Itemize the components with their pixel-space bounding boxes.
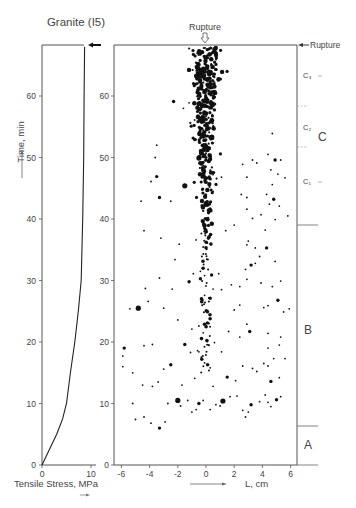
event-point xyxy=(284,358,286,360)
left-y-tick-label: 20 xyxy=(27,337,37,347)
event-point xyxy=(231,284,233,286)
event-point xyxy=(215,404,217,406)
event-point xyxy=(269,203,271,205)
stage-b-label: B xyxy=(304,323,312,337)
event-point xyxy=(145,288,147,290)
event-point xyxy=(219,405,221,407)
event-point xyxy=(143,416,145,418)
stress-curve xyxy=(42,47,85,465)
event-point xyxy=(277,173,279,175)
event-point xyxy=(214,342,216,344)
event-point xyxy=(143,345,145,347)
event-point xyxy=(158,426,161,429)
event-point xyxy=(267,333,269,335)
main-y-tick-label: 40 xyxy=(100,214,110,224)
event-point xyxy=(256,162,258,164)
event-point xyxy=(202,400,204,402)
event-point xyxy=(152,385,154,387)
event-point xyxy=(182,183,187,188)
event-point xyxy=(274,219,276,221)
left-y-tick-label: 0 xyxy=(31,460,36,470)
event-point xyxy=(204,294,206,296)
event-point xyxy=(263,307,265,309)
main-x-tick-label: 6 xyxy=(288,469,293,479)
event-point xyxy=(254,262,256,264)
event-point xyxy=(178,243,180,245)
main-y-tick-label: 20 xyxy=(100,337,110,347)
event-point xyxy=(212,385,214,387)
event-point xyxy=(246,197,248,199)
event-point xyxy=(273,358,275,360)
event-point xyxy=(194,119,196,121)
event-point xyxy=(266,194,268,196)
event-point xyxy=(195,239,197,241)
event-point xyxy=(180,405,182,407)
event-point xyxy=(252,159,254,161)
main-panel: 0102030405060 -6-4-20246 Rupture Rupture… xyxy=(100,22,341,489)
event-point xyxy=(271,286,273,288)
event-point xyxy=(187,280,190,283)
event-point xyxy=(271,184,273,186)
event-point xyxy=(280,159,282,161)
event-point xyxy=(287,215,289,217)
event-point xyxy=(205,285,207,287)
event-point xyxy=(249,403,252,406)
event-point xyxy=(150,422,152,424)
event-point xyxy=(202,332,204,334)
event-point xyxy=(204,362,206,364)
x-axis-arrow-main-icon xyxy=(190,483,227,486)
event-point xyxy=(163,307,165,309)
event-point xyxy=(239,336,241,338)
event-point xyxy=(188,102,190,104)
event-point xyxy=(170,200,172,202)
event-point xyxy=(183,343,186,346)
event-point xyxy=(192,273,194,275)
event-point xyxy=(280,396,282,398)
event-point xyxy=(143,230,145,232)
event-point xyxy=(239,304,241,306)
main-x-tick-label: -2 xyxy=(174,469,182,479)
right-rupture-label: Rupture xyxy=(310,40,341,50)
event-point xyxy=(190,352,192,354)
event-point xyxy=(194,377,196,379)
event-point xyxy=(157,381,159,383)
event-point xyxy=(233,224,235,226)
event-point xyxy=(163,368,165,370)
left-y-tick-label: 10 xyxy=(27,399,37,409)
event-point xyxy=(245,269,247,271)
top-rupture-label: Rupture xyxy=(189,22,221,32)
x-axis-arrow-left-icon xyxy=(80,494,90,497)
event-point xyxy=(246,208,248,210)
event-point xyxy=(132,403,134,405)
event-point xyxy=(245,416,247,418)
event-point xyxy=(249,263,252,266)
event-point xyxy=(195,409,197,411)
event-point xyxy=(246,278,248,280)
event-point xyxy=(160,237,162,239)
event-point xyxy=(259,401,261,403)
main-x-tick-label: -6 xyxy=(118,469,126,479)
event-point xyxy=(278,205,280,207)
left-y-ticks: 0102030405060 xyxy=(27,91,42,470)
event-point xyxy=(198,325,200,327)
event-point xyxy=(122,366,124,368)
main-y-ticks: 0102030405060 xyxy=(100,91,114,470)
event-point xyxy=(260,214,262,216)
event-point xyxy=(197,350,199,352)
stage-c-label: C xyxy=(318,130,327,144)
stage-c2-label: C₂ xyxy=(303,123,311,132)
event-point xyxy=(136,306,141,311)
event-point xyxy=(267,305,269,307)
event-point xyxy=(155,175,158,178)
event-point xyxy=(154,157,156,159)
event-point xyxy=(242,409,244,411)
event-point xyxy=(181,384,183,386)
main-y-tick-label: 10 xyxy=(100,399,110,409)
event-point xyxy=(246,323,248,325)
event-point xyxy=(256,371,258,373)
event-point xyxy=(233,309,235,311)
event-point xyxy=(278,344,280,346)
event-point xyxy=(272,198,275,201)
event-point xyxy=(247,240,249,242)
main-x-tick-label: 0 xyxy=(204,469,209,479)
